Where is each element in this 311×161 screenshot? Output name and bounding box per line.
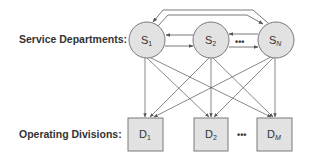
service-node-s1: S1 — [129, 22, 165, 58]
allocation-arrows — [145, 57, 275, 117]
division-node-d2: D2 — [194, 118, 228, 151]
allocation-diagram: S1 S2 SN ••• D1 D2 DM ••• — [0, 0, 311, 161]
arrow-sn-to-s1-top — [153, 10, 268, 23]
division-node-dm: DM — [257, 118, 292, 151]
division-node-d1: D1 — [128, 118, 163, 151]
service-node-s2: S2 — [193, 22, 229, 58]
division-ellipsis: ••• — [237, 130, 246, 140]
service-node-sn: SN — [258, 22, 294, 58]
service-ellipsis: ••• — [235, 37, 244, 47]
